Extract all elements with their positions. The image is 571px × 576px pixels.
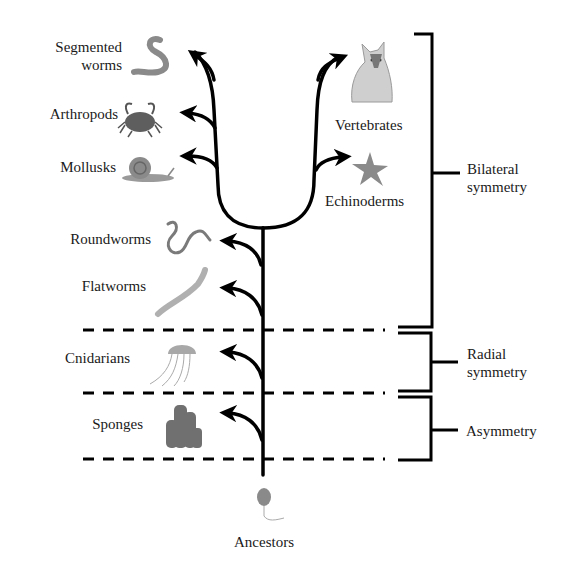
label-line: symmetry (467, 178, 527, 196)
bracket-asymmetry (398, 397, 431, 460)
label-segmented-worms: Segmented worms (20, 38, 122, 74)
label-cnidarians: Cnidarians (10, 349, 130, 367)
tree-lines (188, 52, 343, 475)
label-line: Radial (467, 345, 527, 363)
label-flatworms: Flatworms (10, 277, 146, 295)
branch-arthropods (188, 113, 215, 128)
label-line: worms (20, 56, 122, 74)
crab-icon (118, 103, 162, 137)
label-vertebrates: Vertebrates (335, 116, 402, 134)
symmetry-brackets (398, 34, 460, 460)
bracket-bilateral (398, 34, 432, 327)
label-asymmetry: Asymmetry (466, 422, 537, 440)
label-arthropods: Arthropods (10, 105, 118, 123)
branch-roundworms (228, 241, 261, 265)
branch-cnidarians (228, 352, 262, 378)
label-ancestors: Ancestors (224, 533, 304, 551)
worm-icon (134, 39, 166, 72)
illustrations (118, 39, 392, 520)
bracket-radial (398, 333, 431, 391)
flatworm-icon (158, 270, 205, 314)
jellyfish-icon (150, 345, 196, 386)
branch-mollusks (188, 156, 217, 168)
label-echinoderms: Echinoderms (325, 192, 404, 210)
choanoflagellate-icon (257, 488, 284, 520)
label-line: Segmented (20, 38, 122, 56)
label-line: Bilateral (467, 160, 527, 178)
branch-flatworms (228, 288, 262, 315)
label-line: symmetry (467, 363, 527, 381)
label-mollusks: Mollusks (10, 158, 116, 176)
label-bilateral-symmetry: Bilateral symmetry (467, 160, 527, 196)
roundworm-icon (168, 222, 210, 253)
dog-icon (352, 42, 393, 102)
branch-echinoderms (316, 157, 343, 170)
snail-icon (122, 157, 174, 182)
label-radial-symmetry: Radial symmetry (467, 345, 527, 381)
fork-u (195, 52, 263, 228)
starfish-icon (352, 152, 388, 186)
sponge-icon (166, 405, 202, 448)
label-sponges: Sponges (10, 415, 143, 433)
label-roundworms: Roundworms (10, 230, 151, 248)
branch-sponges (228, 413, 262, 440)
